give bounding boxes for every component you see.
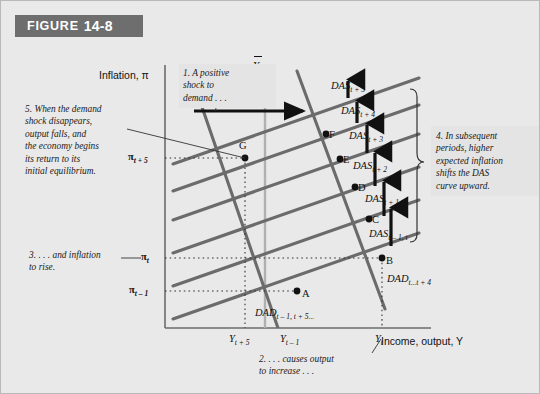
annotation-1: 1. A positive shock to demand . . . bbox=[179, 64, 276, 108]
y-tick-pi-t: πt bbox=[141, 251, 149, 265]
curve-label-das-t-plus-3: DASt + 3 bbox=[349, 130, 383, 144]
annotation-5: 5. When the demand shock disappears, out… bbox=[21, 101, 161, 179]
x-tick-Y-t-minus-1: Yt – 1 bbox=[280, 333, 299, 347]
annotation-4: 4. In subsequent periods, higher expecte… bbox=[431, 126, 539, 196]
point-label-E: E bbox=[343, 154, 349, 165]
point-label-B: B bbox=[386, 255, 393, 266]
point-B bbox=[379, 255, 386, 262]
y-tick-pi-t-minus-1: πt – 1 bbox=[129, 284, 148, 298]
curve-label-das-t-minus-1-t: DASt – 1, t bbox=[369, 228, 408, 242]
figure-container: FIGURE 14-8 bbox=[0, 0, 540, 394]
curve-label-dad-t-t-plus-4: DADt...t + 4 bbox=[387, 273, 431, 287]
annotation-2: 2. . . . causes output to increase . . . bbox=[259, 353, 387, 378]
x-tick-Y-t-plus-5: Yt + 5 bbox=[229, 333, 250, 347]
curve-label-dad-t-minus-1-t-plus-5: DADt – 1, t + 5... bbox=[255, 307, 314, 321]
point-A bbox=[294, 288, 301, 295]
curve-label-das-t-plus-1: DASt + 1 bbox=[365, 193, 399, 207]
point-label-C: C bbox=[372, 214, 379, 225]
point-label-A: A bbox=[302, 288, 310, 299]
point-label-G: G bbox=[239, 140, 247, 151]
curve-label-das-t-plus-5: DASt + 5 bbox=[331, 80, 365, 94]
point-label-D: D bbox=[358, 182, 366, 193]
point-label-F: F bbox=[329, 129, 335, 140]
curve-label-das-t-plus-2: DASt + 2 bbox=[353, 160, 387, 174]
curve-label-das-t-plus-4: DASt + 4 bbox=[341, 105, 375, 119]
x-axis-title: Income, output, Y bbox=[381, 335, 463, 347]
annotation-3: 3. . . . and inflation to rise. bbox=[29, 249, 141, 274]
das-family-brace bbox=[410, 89, 424, 242]
x-tick-Y-t: Yt bbox=[375, 333, 383, 347]
y-axis-title: Inflation, π bbox=[99, 69, 149, 81]
